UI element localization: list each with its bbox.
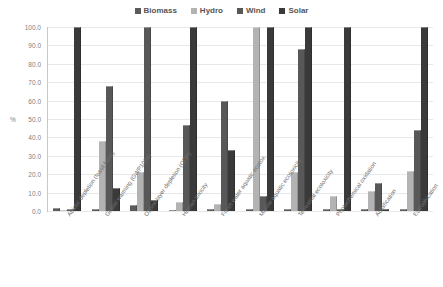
bar-hydro[interactable] bbox=[60, 210, 67, 211]
y-tick-label: 100.0 bbox=[25, 24, 41, 31]
bar-solar[interactable] bbox=[421, 27, 428, 211]
x-label-cell: Terrestrial ecotoxicity bbox=[279, 212, 318, 287]
bar-solar[interactable] bbox=[305, 27, 312, 211]
bar-hydro[interactable] bbox=[407, 171, 414, 211]
bar-wind[interactable] bbox=[144, 27, 151, 211]
bar-biomass[interactable] bbox=[361, 209, 368, 211]
x-axis-labels: Abiotic depletion (fossil fuels)Global w… bbox=[48, 212, 433, 287]
bar-solar[interactable] bbox=[74, 27, 81, 211]
bar-wind[interactable] bbox=[183, 125, 190, 211]
legend-label: Wind bbox=[246, 7, 265, 15]
bar-solar[interactable] bbox=[267, 27, 274, 211]
y-tick-label: 70.0 bbox=[28, 79, 41, 86]
bar-biomass[interactable] bbox=[169, 210, 176, 211]
bar-biomass[interactable] bbox=[92, 209, 99, 211]
bar-hydro[interactable] bbox=[176, 202, 183, 211]
y-tick-label: 50.0 bbox=[28, 116, 41, 123]
legend-item-biomass[interactable]: Biomass bbox=[135, 7, 177, 15]
x-label-cell: Human toxicity bbox=[164, 212, 203, 287]
legend-item-solar[interactable]: Solar bbox=[279, 7, 308, 15]
y-tick-label: 60.0 bbox=[28, 97, 41, 104]
bar-biomass[interactable] bbox=[400, 209, 407, 211]
y-axis-ticks: 100.090.080.070.060.050.040.030.020.010.… bbox=[0, 27, 45, 212]
bar-biomass[interactable] bbox=[130, 205, 137, 211]
bar-biomass[interactable] bbox=[284, 209, 291, 211]
bar-wind[interactable] bbox=[106, 86, 113, 211]
bar-hydro[interactable] bbox=[291, 172, 298, 211]
x-label-cell: Global warming (GWP100a) bbox=[87, 212, 126, 287]
bar-wind[interactable] bbox=[414, 130, 421, 211]
bar-biomass[interactable] bbox=[53, 208, 60, 211]
x-label-cell: Eutrophication bbox=[395, 212, 434, 287]
legend-item-wind[interactable]: Wind bbox=[237, 7, 265, 15]
bar-group bbox=[202, 27, 241, 211]
y-tick-label: 90.0 bbox=[28, 42, 41, 49]
bar-chart: BiomassHydroWindSolar % 100.090.080.070.… bbox=[0, 0, 443, 287]
x-label-cell: Abiotic depletion (fossil fuels) bbox=[48, 212, 87, 287]
legend-label: Biomass bbox=[144, 7, 177, 15]
bar-hydro[interactable] bbox=[214, 204, 221, 211]
y-tick-label: 0.0 bbox=[32, 208, 41, 215]
bar-hydro[interactable] bbox=[253, 27, 260, 211]
bar-wind[interactable] bbox=[221, 101, 228, 211]
y-tick-label: 40.0 bbox=[28, 134, 41, 141]
legend-label: Solar bbox=[288, 7, 308, 15]
legend-item-hydro[interactable]: Hydro bbox=[191, 7, 223, 15]
y-tick-label: 80.0 bbox=[28, 60, 41, 67]
bar-hydro[interactable] bbox=[368, 191, 375, 211]
x-label-cell: Photochemical oxidation bbox=[318, 212, 357, 287]
legend-swatch-wind bbox=[237, 8, 243, 14]
x-label-cell: Marine aquatic ecotoxicity bbox=[241, 212, 280, 287]
legend-swatch-solar bbox=[279, 8, 285, 14]
x-label-cell: Fresh water aquatic ecotox. bbox=[202, 212, 241, 287]
y-tick-label: 10.0 bbox=[28, 189, 41, 196]
bar-biomass[interactable] bbox=[323, 209, 330, 211]
legend-swatch-biomass bbox=[135, 8, 141, 14]
bar-wind[interactable] bbox=[298, 49, 305, 211]
x-label-cell: Ozone layer depletion (ODP) bbox=[125, 212, 164, 287]
bar-solar[interactable] bbox=[190, 27, 197, 211]
y-tick-label: 20.0 bbox=[28, 171, 41, 178]
bar-biomass[interactable] bbox=[246, 209, 253, 211]
bar-biomass[interactable] bbox=[207, 209, 214, 211]
bar-solar[interactable] bbox=[344, 27, 351, 211]
bar-group bbox=[395, 27, 434, 211]
legend-label: Hydro bbox=[200, 7, 223, 15]
chart-legend: BiomassHydroWindSolar bbox=[0, 4, 443, 18]
bar-hydro[interactable] bbox=[330, 196, 337, 211]
x-label-cell: Acidification bbox=[356, 212, 395, 287]
bar-hydro[interactable] bbox=[137, 172, 144, 211]
bar-group bbox=[48, 27, 87, 211]
legend-swatch-hydro bbox=[191, 8, 197, 14]
y-tick-label: 30.0 bbox=[28, 152, 41, 159]
